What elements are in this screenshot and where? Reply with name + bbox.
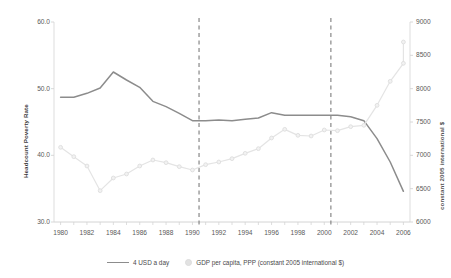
- y-axis-left-tick-label: 50.0: [22, 85, 50, 92]
- y-axis-right-tick-label: 9000: [416, 18, 446, 25]
- series-marker-1: [270, 136, 274, 140]
- series-marker-1: [283, 127, 287, 131]
- series-marker-1: [388, 79, 392, 83]
- series-marker-1: [402, 40, 406, 44]
- series-marker-1: [59, 145, 63, 149]
- series-marker-1: [151, 158, 155, 162]
- series-marker-1: [164, 161, 168, 165]
- y-axis-right-tick-label: 6000: [416, 218, 446, 225]
- series-marker-1: [349, 125, 353, 129]
- series-marker-1: [138, 164, 142, 168]
- legend-label: 4 USD a day: [133, 259, 169, 266]
- series-marker-1: [111, 176, 115, 180]
- series-marker-1: [256, 147, 260, 151]
- series-marker-1: [85, 164, 89, 168]
- legend-item[interactable]: GDP per capita, PPP (constant 2005 inter…: [185, 259, 344, 266]
- y-axis-left-tick-label: 40.0: [22, 151, 50, 158]
- y-axis-right-tick-label: 8500: [416, 51, 446, 58]
- series-marker-1: [125, 172, 129, 176]
- series-line-0: [61, 72, 404, 191]
- series-marker-1: [72, 155, 76, 159]
- y-axis-left-title: Headcount Poverty Rate: [22, 104, 29, 178]
- series-marker-1: [336, 129, 340, 133]
- y-axis-right-tick-label: 7500: [416, 118, 446, 125]
- legend-dot-swatch-icon: [185, 259, 192, 266]
- series-marker-1: [402, 61, 406, 65]
- series-marker-1: [375, 103, 379, 107]
- series-marker-1: [296, 133, 300, 137]
- series-marker-1: [217, 160, 221, 164]
- series-marker-1: [191, 168, 195, 172]
- legend-label: GDP per capita, PPP (constant 2005 inter…: [196, 259, 344, 266]
- chart-container: Headcount Poverty Rate constant 2005 int…: [0, 0, 451, 278]
- series-marker-1: [322, 128, 326, 132]
- x-axis-tick-label: 2006: [388, 229, 418, 236]
- series-marker-1: [243, 151, 247, 155]
- y-axis-right-tick-label: 8000: [416, 85, 446, 92]
- series-marker-1: [177, 165, 181, 169]
- legend-item[interactable]: 4 USD a day: [107, 259, 169, 266]
- plot-area: [54, 22, 410, 222]
- y-axis-right-tick-label: 6500: [416, 185, 446, 192]
- plot-svg: [54, 22, 410, 222]
- series-marker-1: [309, 134, 313, 138]
- y-axis-right-tick-label: 7000: [416, 151, 446, 158]
- series-marker-1: [362, 123, 366, 127]
- y-axis-right-title: constant 2005 international $: [438, 122, 445, 210]
- y-axis-left-tick-label: 30.0: [22, 218, 50, 225]
- y-axis-left-tick-label: 60.0: [22, 18, 50, 25]
- chart-legend: 4 USD a dayGDP per capita, PPP (constant…: [0, 252, 451, 272]
- series-marker-1: [204, 163, 208, 167]
- series-marker-1: [230, 157, 234, 161]
- legend-line-swatch-icon: [107, 262, 129, 263]
- series-marker-1: [98, 189, 102, 193]
